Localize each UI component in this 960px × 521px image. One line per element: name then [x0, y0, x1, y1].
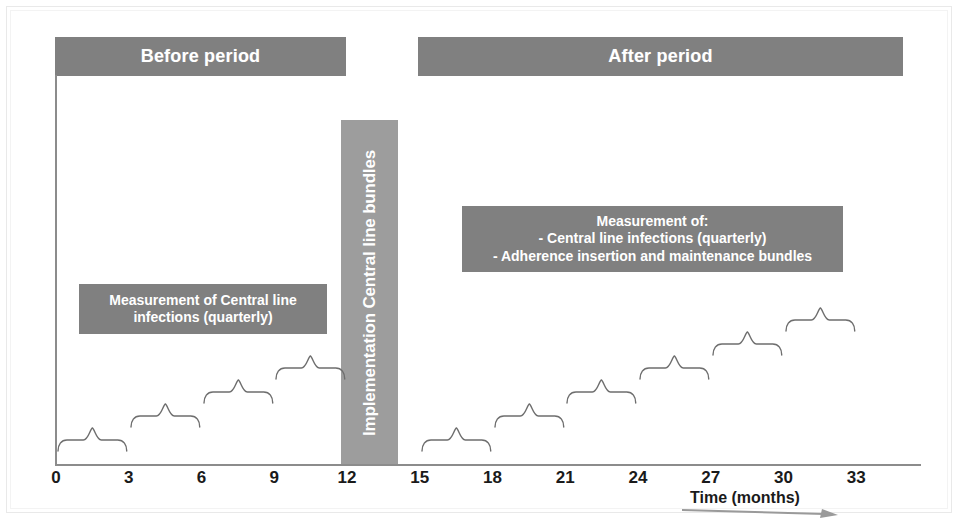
x-tick-label-21: 21	[556, 468, 575, 488]
before-note-line-2: infections (quarterly)	[133, 309, 272, 326]
after-note-line-3: - Adherence insertion and maintenance bu…	[493, 248, 812, 265]
x-tick-label-33: 33	[847, 468, 866, 488]
before-measurement-note: Measurement of Central line infections (…	[79, 284, 327, 334]
timeline-figure: Before period After period Implementatio…	[0, 0, 960, 521]
x-tick-label-27: 27	[701, 468, 720, 488]
before-note-line-1: Measurement of Central line	[109, 292, 297, 309]
after-period-banner: After period	[418, 37, 903, 76]
x-tick-label-12: 12	[338, 468, 357, 488]
x-tick-label-30: 30	[774, 468, 793, 488]
x-tick-label-24: 24	[629, 468, 648, 488]
after-note-line-1: Measurement of:	[596, 213, 708, 230]
right-arrow-icon	[682, 506, 838, 518]
x-tick-label-3: 3	[124, 468, 133, 488]
measurement-brace-after-6	[772, 302, 869, 339]
x-tick-label-15: 15	[410, 468, 429, 488]
before-period-banner: Before period	[55, 37, 346, 76]
x-tick-label-0: 0	[51, 468, 60, 488]
implementation-bar: Implementation Central line bundles	[341, 120, 398, 465]
x-axis-caption: Time (months)	[690, 489, 800, 507]
x-axis-line	[55, 464, 921, 466]
y-axis-line	[55, 75, 57, 466]
x-tick-label-9: 9	[270, 468, 279, 488]
x-tick-label-6: 6	[197, 468, 206, 488]
after-note-line-2: - Central line infections (quarterly)	[539, 230, 767, 247]
measurement-brace-before-4	[262, 350, 359, 387]
before-period-label: Before period	[141, 46, 261, 67]
after-period-label: After period	[608, 46, 712, 67]
after-measurement-note: Measurement of: - Central line infection…	[462, 206, 843, 272]
x-tick-label-18: 18	[483, 468, 502, 488]
implementation-bar-label: Implementation Central line bundles	[360, 150, 380, 436]
